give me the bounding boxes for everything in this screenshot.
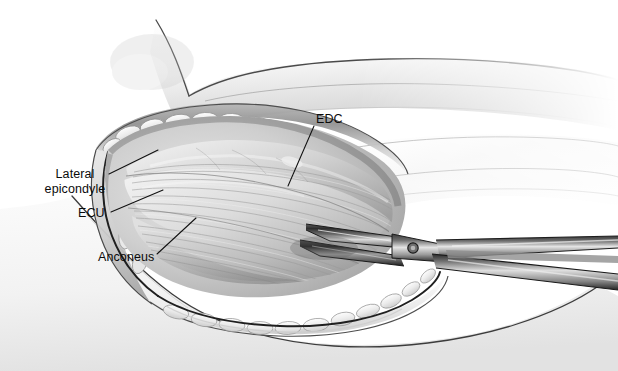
tonal-smudge (110, 34, 194, 90)
label-anconeus: Anconeus (98, 250, 154, 264)
label-lateral-epicondyle-line1: Lateral (56, 167, 95, 181)
label-lateral-epicondyle: Lateral epicondyle (41, 167, 109, 197)
label-lateral-epicondyle-line2: epicondyle (45, 182, 106, 196)
medical-illustration-figure: Lateral epicondyle EDC ECU Anconeus (0, 0, 618, 371)
label-edc: EDC (316, 112, 343, 126)
label-ecu: ECU (78, 206, 105, 220)
